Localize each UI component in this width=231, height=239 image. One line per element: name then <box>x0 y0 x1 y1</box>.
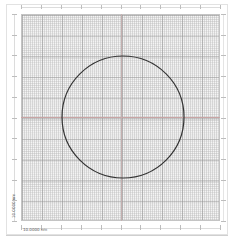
horizontal-scale-label: 10.0000 nm <box>23 227 47 232</box>
circle-drawing <box>0 0 231 239</box>
vertical-scale-label: 10.0000 nm <box>11 194 16 218</box>
circle-shape[interactable] <box>62 56 184 178</box>
